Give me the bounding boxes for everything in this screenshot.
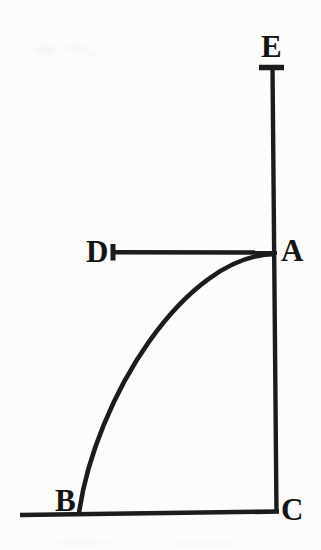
label-B: B xyxy=(55,483,76,518)
scanned-figure-page: E D A B C xyxy=(0,0,321,550)
label-A: A xyxy=(281,233,304,268)
curve-AB xyxy=(79,254,276,513)
label-E: E xyxy=(261,29,282,64)
label-C: C xyxy=(281,492,303,527)
rod-EC xyxy=(273,66,277,513)
diagram-canvas: E D A B C xyxy=(0,0,321,550)
label-D: D xyxy=(86,234,108,269)
